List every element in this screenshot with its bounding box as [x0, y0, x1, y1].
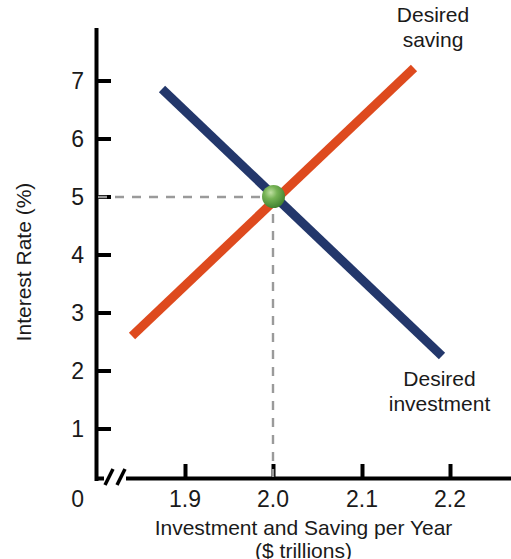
- series-label-desired-investment-line1: Desired: [368, 366, 511, 392]
- x-axis-title-line1: Investment and Saving per Year: [96, 516, 511, 541]
- origin-label-0: 0: [50, 486, 84, 513]
- y-tick-label-3: 3: [50, 300, 84, 327]
- y-tick-label-4: 4: [50, 242, 84, 269]
- x-tick-label-2-2: 2.2: [415, 486, 485, 513]
- x-tick-label-1-9: 1.9: [150, 486, 220, 513]
- y-tick-label-1: 1: [50, 416, 84, 443]
- y-tick-label-5: 5: [50, 184, 84, 211]
- y-tick-label-6: 6: [50, 126, 84, 153]
- desired-investment-line: [162, 89, 442, 356]
- x-tick-label-2-0: 2.0: [238, 486, 308, 513]
- x-axis-title-line2: ($ trillions): [96, 539, 511, 559]
- equilibrium-point-marker: [262, 185, 285, 208]
- series-label-desired-investment-line2: investment: [368, 391, 511, 417]
- y-tick-label-7: 7: [50, 68, 84, 95]
- y-axis-title: Interest Rate (%): [12, 152, 36, 372]
- x-tick-label-2-1: 2.1: [327, 486, 397, 513]
- series-label-desired-saving-line1: Desired: [358, 2, 508, 28]
- series-label-desired-saving-line2: saving: [358, 27, 508, 53]
- interest-rate-savings-investment-chart: Interest Rate (%) 7 6 5 4 3 2 1 0 1.9 2.…: [0, 0, 511, 559]
- y-tick-label-2: 2: [50, 358, 84, 385]
